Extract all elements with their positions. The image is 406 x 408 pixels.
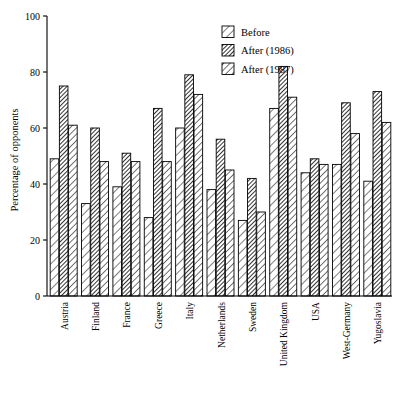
category-label-sweden: Sweden bbox=[248, 302, 258, 332]
category-label-france: France bbox=[122, 302, 132, 328]
bar-france-series-3 bbox=[131, 162, 140, 296]
bar-greece-series-2 bbox=[153, 108, 162, 296]
bar-finland-series-2 bbox=[91, 128, 100, 296]
legend-swatch-2 bbox=[222, 45, 234, 57]
bar-greece-series-3 bbox=[163, 162, 172, 296]
bar-west-germany-series-1 bbox=[332, 164, 341, 296]
chart-canvas: 020406080100 BeforeAfter (1986)After (19… bbox=[0, 0, 406, 408]
bar-austria-series-2 bbox=[59, 86, 68, 296]
category-label-greece: Greece bbox=[154, 302, 164, 329]
chart-legend: BeforeAfter (1986)After (1987) bbox=[222, 26, 294, 76]
bar-chart: 020406080100 BeforeAfter (1986)After (19… bbox=[0, 0, 406, 408]
category-label-united-kingdom: United Kingdom bbox=[279, 301, 289, 366]
bar-austria-series-3 bbox=[69, 125, 78, 296]
bar-usa-series-1 bbox=[301, 173, 310, 296]
bar-yugoslavia-series-3 bbox=[382, 122, 391, 296]
bar-france-series-2 bbox=[122, 153, 131, 296]
bar-west-germany-series-2 bbox=[342, 103, 351, 296]
y-tick-label-80: 80 bbox=[30, 67, 40, 78]
category-label-usa: USA bbox=[311, 302, 321, 321]
bar-italy-series-1 bbox=[176, 128, 185, 296]
category-label-yugoslavia: Yugoslavia bbox=[373, 301, 383, 344]
category-label-finland: Finland bbox=[91, 302, 101, 331]
bar-italy-series-3 bbox=[194, 94, 203, 296]
legend-label-2: After (1986) bbox=[241, 45, 294, 57]
y-tick-label-40: 40 bbox=[30, 179, 40, 190]
bar-sweden-series-2 bbox=[248, 178, 257, 296]
bar-united-kingdom-series-2 bbox=[279, 66, 288, 296]
legend-swatch-3 bbox=[222, 63, 234, 75]
category-label-west-germany: West-Germany bbox=[342, 302, 352, 360]
legend-label-3: After (1987) bbox=[241, 64, 294, 76]
bar-italy-series-2 bbox=[185, 75, 194, 296]
bar-greece-series-1 bbox=[144, 218, 153, 296]
bar-france-series-1 bbox=[113, 187, 122, 296]
y-tick-label-60: 60 bbox=[30, 123, 40, 134]
bar-finland-series-3 bbox=[100, 162, 109, 296]
y-axis-label: Percentage of opponents bbox=[9, 108, 20, 211]
bar-finland-series-1 bbox=[82, 204, 91, 296]
legend-label-1: Before bbox=[241, 27, 270, 38]
bar-netherlands-series-3 bbox=[225, 170, 234, 296]
y-tick-label-0: 0 bbox=[35, 291, 40, 302]
bar-usa-series-3 bbox=[319, 164, 328, 296]
bar-united-kingdom-series-3 bbox=[288, 97, 297, 296]
bar-west-germany-series-3 bbox=[351, 134, 360, 296]
bar-netherlands-series-2 bbox=[216, 139, 225, 296]
category-label-netherlands: Netherlands bbox=[217, 302, 227, 348]
y-tick-label-100: 100 bbox=[25, 11, 40, 22]
bar-usa-series-2 bbox=[310, 159, 319, 296]
bar-netherlands-series-1 bbox=[207, 190, 216, 296]
bar-sweden-series-3 bbox=[257, 212, 266, 296]
bar-austria-series-1 bbox=[50, 159, 59, 296]
category-label-italy: Italy bbox=[185, 302, 195, 320]
category-label-austria: Austria bbox=[60, 301, 70, 330]
plot-area bbox=[50, 66, 391, 296]
bar-united-kingdom-series-1 bbox=[270, 108, 279, 296]
category-labels: AustriaFinlandFranceGreeceItalyNetherlan… bbox=[60, 301, 384, 366]
bar-yugoslavia-series-1 bbox=[364, 181, 373, 296]
y-tick-label-20: 20 bbox=[30, 235, 40, 246]
legend-swatch-1 bbox=[222, 26, 234, 38]
bar-yugoslavia-series-2 bbox=[373, 92, 382, 296]
bar-sweden-series-1 bbox=[238, 220, 247, 296]
